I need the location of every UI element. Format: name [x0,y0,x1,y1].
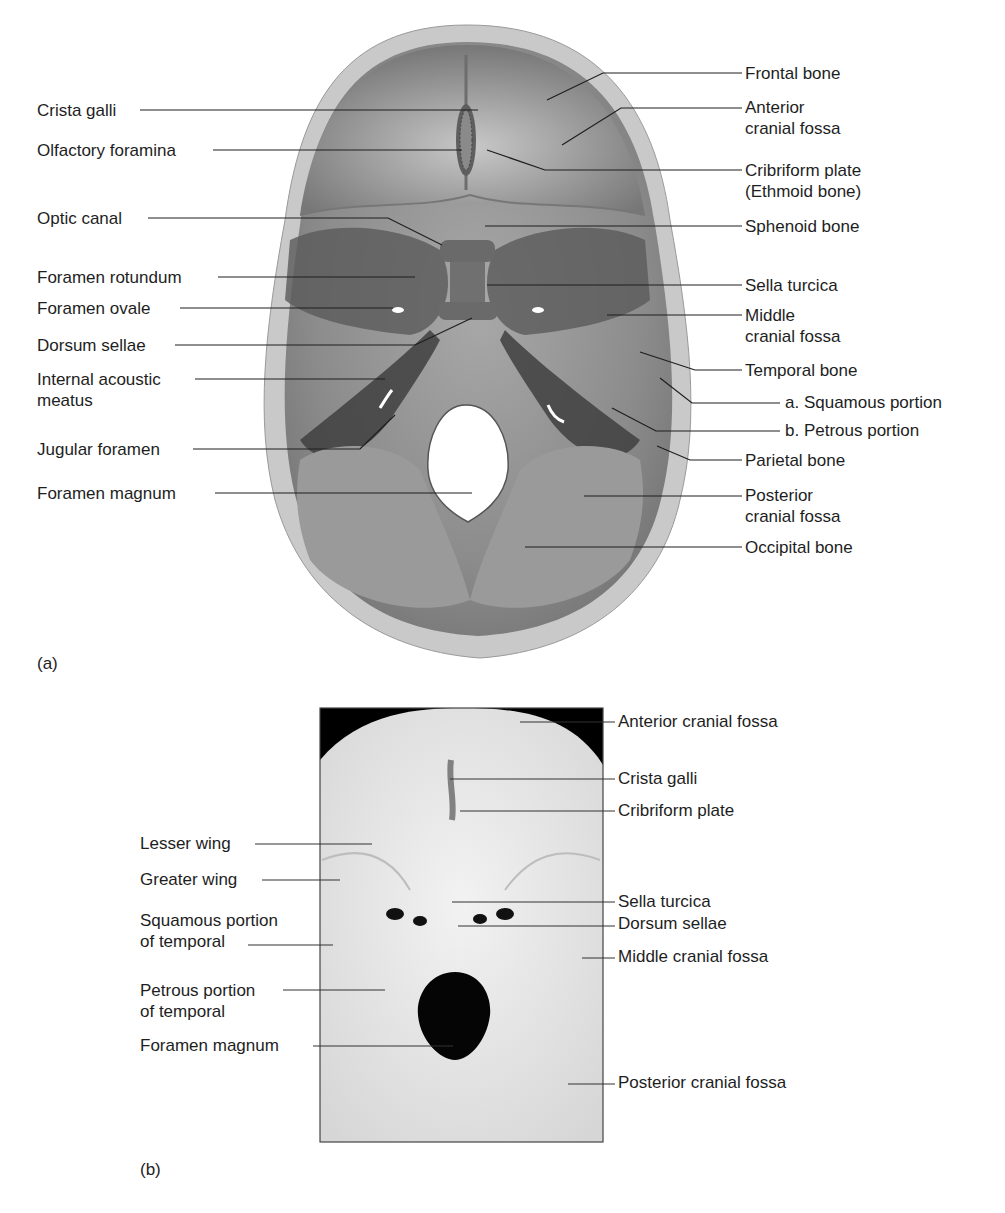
label-parietal-bone: Parietal bone [745,450,845,471]
label-sphenoid-bone: Sphenoid bone [745,216,859,237]
label-frontal-bone: Frontal bone [745,63,840,84]
label-greater-wing: Greater wing [140,869,237,890]
label-temporal-bone: Temporal bone [745,360,857,381]
label-foramen-ovale: Foramen ovale [37,298,150,319]
label-crista-galli: Crista galli [37,100,116,121]
label-sella-turcica-b: Sella turcica [618,891,711,912]
label-optic-canal: Optic canal [37,208,122,229]
label-petrous-portion-of-temporal: Petrous portion of temporal [140,980,255,1022]
label-cribriform-plate-b: Cribriform plate [618,800,734,821]
panel-label-a: (a) [37,654,58,674]
label-anterior-cranial-fossa-b: Anterior cranial fossa [618,711,778,732]
label-foramen-magnum: Foramen magnum [37,483,176,504]
label-crista-galli-b: Crista galli [618,768,697,789]
label-jugular-foramen: Jugular foramen [37,439,160,460]
label-anterior-cranial-fossa: Anterior cranial fossa [745,97,840,139]
skull-base-photograph [320,708,603,1142]
label-olfactory-foramina: Olfactory foramina [37,140,176,161]
label-lesser-wing: Lesser wing [140,833,231,854]
label-squamous-portion: a. Squamous portion [785,392,942,413]
label-posterior-cranial-fossa: Posterior cranial fossa [745,485,840,527]
label-sella-turcica: Sella turcica [745,275,838,296]
label-dorsum-sellae: Dorsum sellae [37,335,146,356]
label-internal-acoustic-meatus: Internal acoustic meatus [37,369,161,411]
label-middle-cranial-fossa: Middle cranial fossa [745,305,840,347]
label-foramen-magnum-b: Foramen magnum [140,1035,279,1056]
label-cribriform-plate: Cribriform plate (Ethmoid bone) [745,160,861,202]
label-middle-cranial-fossa-b: Middle cranial fossa [618,946,768,967]
label-foramen-rotundum: Foramen rotundum [37,267,182,288]
label-posterior-cranial-fossa-b: Posterior cranial fossa [618,1072,786,1093]
label-dorsum-sellae-b: Dorsum sellae [618,913,727,934]
label-squamous-portion-of-temporal: Squamous portion of temporal [140,910,278,952]
skull-base-illustration [264,25,691,658]
label-petrous-portion: b. Petrous portion [785,420,919,441]
label-occipital-bone: Occipital bone [745,537,853,558]
panel-label-b: (b) [140,1160,161,1180]
